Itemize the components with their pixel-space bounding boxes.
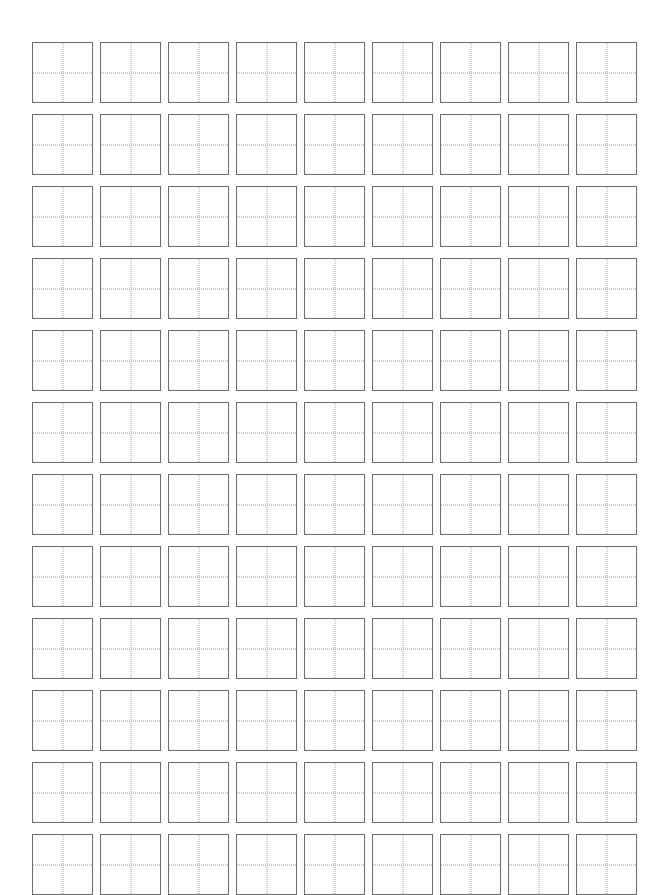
practice-cell[interactable] [304,186,365,247]
practice-cell[interactable] [576,834,637,895]
practice-cell[interactable] [576,402,637,463]
practice-cell[interactable] [372,42,433,103]
practice-cell[interactable] [32,330,93,391]
practice-cell[interactable] [304,258,365,319]
practice-cell[interactable] [32,258,93,319]
practice-cell[interactable] [32,690,93,751]
practice-cell[interactable] [576,618,637,679]
practice-cell[interactable] [100,474,161,535]
practice-cell[interactable] [576,114,637,175]
practice-cell[interactable] [508,258,569,319]
practice-cell[interactable] [372,114,433,175]
practice-cell[interactable] [236,690,297,751]
practice-cell[interactable] [304,42,365,103]
practice-cell[interactable] [168,474,229,535]
practice-cell[interactable] [440,474,501,535]
practice-cell[interactable] [100,834,161,895]
practice-cell[interactable] [372,762,433,823]
practice-cell[interactable] [576,42,637,103]
practice-cell[interactable] [168,762,229,823]
practice-cell[interactable] [440,330,501,391]
practice-cell[interactable] [100,258,161,319]
practice-cell[interactable] [100,114,161,175]
practice-cell[interactable] [236,546,297,607]
practice-cell[interactable] [304,330,365,391]
practice-cell[interactable] [440,42,501,103]
practice-cell[interactable] [372,186,433,247]
practice-cell[interactable] [236,186,297,247]
practice-cell[interactable] [372,402,433,463]
practice-cell[interactable] [508,42,569,103]
practice-cell[interactable] [508,114,569,175]
practice-cell[interactable] [100,618,161,679]
practice-cell[interactable] [372,546,433,607]
practice-cell[interactable] [576,762,637,823]
practice-cell[interactable] [508,546,569,607]
practice-cell[interactable] [32,186,93,247]
practice-cell[interactable] [168,834,229,895]
practice-cell[interactable] [372,330,433,391]
practice-cell[interactable] [32,114,93,175]
practice-cell[interactable] [304,114,365,175]
practice-cell[interactable] [440,762,501,823]
practice-cell[interactable] [32,762,93,823]
practice-cell[interactable] [372,474,433,535]
practice-cell[interactable] [100,690,161,751]
practice-cell[interactable] [508,330,569,391]
practice-cell[interactable] [440,114,501,175]
practice-cell[interactable] [304,474,365,535]
practice-cell[interactable] [372,618,433,679]
practice-cell[interactable] [440,258,501,319]
practice-cell[interactable] [372,258,433,319]
practice-cell[interactable] [304,762,365,823]
practice-cell[interactable] [304,618,365,679]
practice-cell[interactable] [440,618,501,679]
practice-cell[interactable] [576,258,637,319]
practice-cell[interactable] [508,186,569,247]
practice-cell[interactable] [32,42,93,103]
practice-cell[interactable] [576,474,637,535]
practice-cell[interactable] [508,402,569,463]
practice-cell[interactable] [236,618,297,679]
practice-cell[interactable] [508,618,569,679]
practice-cell[interactable] [508,762,569,823]
practice-cell[interactable] [236,42,297,103]
practice-cell[interactable] [168,690,229,751]
practice-cell[interactable] [440,402,501,463]
practice-cell[interactable] [100,762,161,823]
practice-cell[interactable] [100,402,161,463]
practice-cell[interactable] [372,834,433,895]
practice-cell[interactable] [440,834,501,895]
practice-cell[interactable] [168,546,229,607]
practice-cell[interactable] [100,42,161,103]
practice-cell[interactable] [304,402,365,463]
practice-cell[interactable] [304,690,365,751]
practice-cell[interactable] [440,546,501,607]
practice-cell[interactable] [168,402,229,463]
practice-cell[interactable] [32,834,93,895]
practice-cell[interactable] [236,402,297,463]
practice-cell[interactable] [372,690,433,751]
practice-cell[interactable] [32,402,93,463]
practice-cell[interactable] [304,834,365,895]
practice-cell[interactable] [100,330,161,391]
practice-cell[interactable] [32,474,93,535]
practice-cell[interactable] [576,690,637,751]
practice-cell[interactable] [440,690,501,751]
practice-cell[interactable] [100,546,161,607]
practice-cell[interactable] [236,474,297,535]
practice-cell[interactable] [168,114,229,175]
practice-cell[interactable] [576,186,637,247]
practice-cell[interactable] [168,186,229,247]
practice-cell[interactable] [236,834,297,895]
practice-cell[interactable] [236,762,297,823]
practice-cell[interactable] [236,330,297,391]
practice-cell[interactable] [508,834,569,895]
practice-cell[interactable] [168,42,229,103]
practice-cell[interactable] [236,258,297,319]
practice-cell[interactable] [168,258,229,319]
practice-cell[interactable] [236,114,297,175]
practice-cell[interactable] [508,474,569,535]
practice-cell[interactable] [32,618,93,679]
practice-cell[interactable] [576,330,637,391]
